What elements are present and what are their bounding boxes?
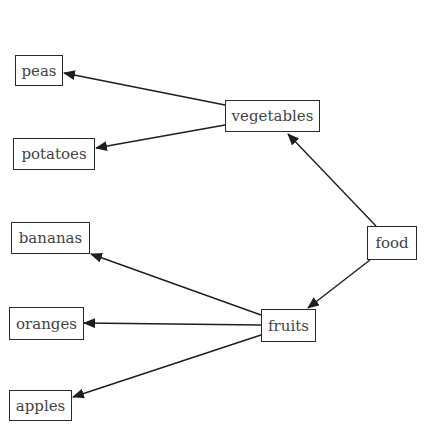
node-bananas: bananas [11, 222, 90, 254]
edge-vegetables-to-peas [64, 73, 225, 105]
node-food: food [367, 226, 417, 260]
edge-vegetables-to-potatoes [96, 125, 225, 148]
edge-fruits-to-bananas [91, 254, 261, 315]
node-apples: apples [9, 390, 72, 421]
node-fruits: fruits [261, 309, 316, 342]
edge-fruits-to-oranges [84, 323, 261, 325]
edge-fruits-to-apples [73, 335, 261, 397]
node-potatoes: potatoes [13, 138, 95, 170]
node-vegetables: vegetables [225, 100, 320, 132]
edge-food-to-fruits [308, 260, 370, 308]
food-tree-diagram: food vegetables fruits peas potatoes ban… [0, 0, 441, 443]
node-oranges: oranges [9, 307, 84, 340]
edge-food-to-vegetables [288, 134, 376, 226]
node-peas: peas [15, 55, 63, 86]
